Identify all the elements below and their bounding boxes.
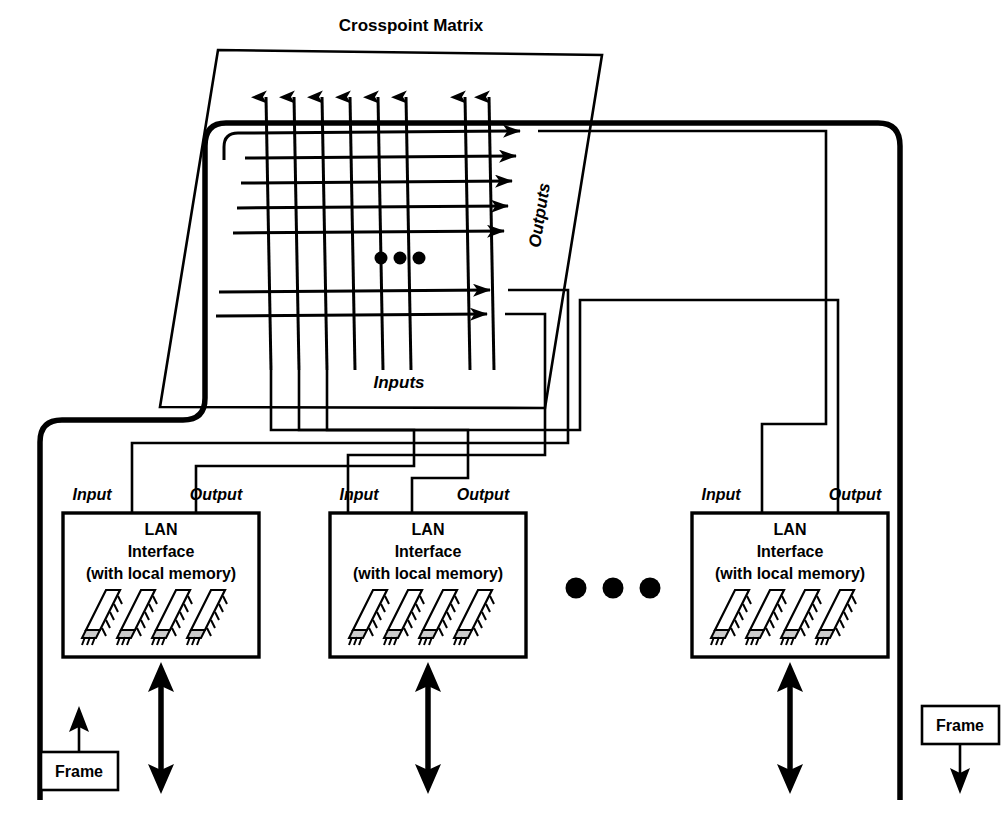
lan-node-1-input-label: Input <box>72 486 112 503</box>
lan-node-2-title-1: LAN <box>412 521 445 538</box>
lan-node-1-title-2: Interface <box>128 543 195 560</box>
lan-node-2-title-3: (with local memory) <box>353 565 503 582</box>
lan-node-2-output-label: Output <box>457 486 510 503</box>
frame-right[interactable]: Frame <box>922 706 999 794</box>
lan-node-3-input-label: Input <box>701 486 741 503</box>
frame-left-arrow-up-icon <box>69 706 89 752</box>
lan-node-2[interactable]: Input Output LAN Interface (with local m… <box>330 486 526 794</box>
crosspoint-matrix-diagram: Crosspoint Matrix <box>0 0 1006 816</box>
lan-node-3-title-2: Interface <box>757 543 824 560</box>
matrix-bus-corner <box>224 133 249 160</box>
lan-node-1-title-3: (with local memory) <box>86 565 236 582</box>
lan-node-2-input-label: Input <box>339 486 379 503</box>
lan-node-3-host-link <box>777 662 803 794</box>
frame-left-label: Frame <box>55 763 103 780</box>
lan-node-3-output-label: Output <box>829 486 882 503</box>
lan-node-3-title-1: LAN <box>774 521 807 538</box>
lan-node-2-title-2: Interface <box>395 543 462 560</box>
lan-node-1-host-link <box>148 662 174 794</box>
frame-right-label: Frame <box>936 717 984 734</box>
lan-node-3[interactable]: Input Output LAN Interface (with local m… <box>692 486 888 794</box>
frame-right-arrow-down-icon <box>950 744 970 794</box>
lan-node-1[interactable]: Input Output LAN Interface (with local m… <box>63 486 259 794</box>
lan-node-2-host-link <box>415 662 441 794</box>
routing-output-feeds <box>132 131 826 512</box>
lan-node-1-output-label: Output <box>190 486 243 503</box>
diagram-canvas: Crosspoint Matrix <box>0 0 1006 816</box>
matrix-outputs-label: Outputs <box>525 181 554 248</box>
node-ellipsis <box>566 578 661 599</box>
matrix-output-lines <box>216 131 520 316</box>
lan-node-3-title-3: (with local memory) <box>715 565 865 582</box>
frame-left[interactable]: Frame <box>41 706 118 790</box>
lan-node-1-title-1: LAN <box>145 521 178 538</box>
outer-bus-right <box>878 123 900 800</box>
matrix-inputs-label: Inputs <box>374 373 425 392</box>
routing-input-feeds <box>196 300 838 512</box>
matrix-ellipsis <box>375 252 426 265</box>
page-title: Crosspoint Matrix <box>339 16 484 35</box>
